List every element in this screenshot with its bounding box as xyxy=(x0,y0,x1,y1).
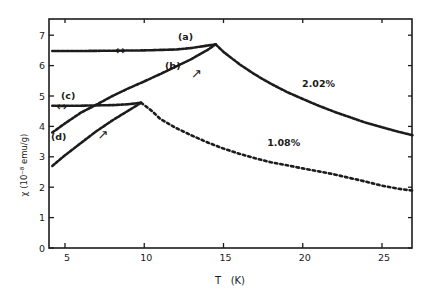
y-tick-label: 4 xyxy=(39,121,45,132)
y-tick-label: 3 xyxy=(39,151,45,162)
y-axis-label: χ (10⁻⁸ emu/g) xyxy=(19,134,29,197)
data-series xyxy=(52,44,413,191)
x-tick-label: 20 xyxy=(299,252,311,263)
x-axis-label: T (K) xyxy=(214,275,245,286)
double-arrow-icon: ↔ xyxy=(115,43,126,58)
y-tick-label: 1 xyxy=(39,212,45,223)
series-line xyxy=(52,44,215,51)
double-arrow-icon: ↔ xyxy=(56,99,67,114)
arrow-up-right-icon: ↗ xyxy=(98,127,109,142)
x-tick-label: 15 xyxy=(219,252,231,263)
curve-label: 2.02% xyxy=(302,78,335,89)
y-tick-label: 7 xyxy=(39,30,45,41)
curve-label: (d) xyxy=(51,131,66,142)
x-tick-label: 5 xyxy=(64,252,70,263)
y-axis-ticks: 01234567 xyxy=(39,30,412,254)
curve-label: (a) xyxy=(178,31,193,42)
y-tick-label: 0 xyxy=(39,243,45,254)
y-tick-label: 2 xyxy=(39,182,45,193)
curve-label: (b) xyxy=(165,60,180,71)
series-line xyxy=(52,44,215,132)
x-tick-label: 25 xyxy=(378,252,390,263)
series-line xyxy=(216,44,414,135)
arrow-up-right-icon: ↗ xyxy=(191,66,202,81)
x-tick-label: 10 xyxy=(140,252,152,263)
y-tick-label: 6 xyxy=(39,60,45,71)
curve-label: 1.08% xyxy=(267,137,300,148)
susceptibility-chart: 01234567 510152025 (a)(b)(c)(d)2.02%1.08… xyxy=(0,0,432,291)
y-tick-label: 5 xyxy=(39,91,45,102)
